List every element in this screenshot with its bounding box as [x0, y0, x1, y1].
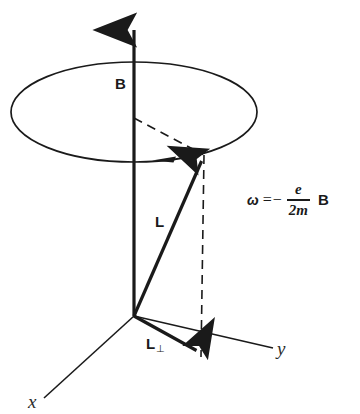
x-axis-label: x — [28, 392, 36, 411]
fraction-denominator: 2m — [287, 201, 310, 219]
equals-sign: = — [263, 191, 272, 209]
omega-symbol: ω — [247, 192, 259, 208]
l-perp-base: L — [146, 335, 155, 352]
b-field-label: B — [115, 76, 126, 91]
larmor-frequency-equation: ω = − e 2m B — [247, 181, 329, 219]
e-over-2m-fraction: e 2m — [287, 181, 310, 219]
y-axis-label: y — [277, 339, 285, 358]
dashed-projection-line — [201, 155, 204, 357]
l-vector-arrow — [134, 161, 202, 316]
perpendicular-subscript-icon: ⊥ — [156, 343, 165, 354]
minus-sign: − — [273, 191, 282, 209]
fraction-numerator: e — [293, 181, 304, 199]
equation-b-field-symbol: B — [318, 191, 329, 208]
l-vector-label: L — [155, 214, 164, 229]
dashed-radius-line — [134, 118, 203, 155]
x-axis-line — [44, 316, 134, 398]
l-perp-vector-arrow — [134, 316, 197, 351]
l-perp-vector-label: L⊥ — [146, 336, 165, 354]
larmor-precession-diagram: B L L⊥ x y ω = − e 2m B — [0, 0, 360, 414]
